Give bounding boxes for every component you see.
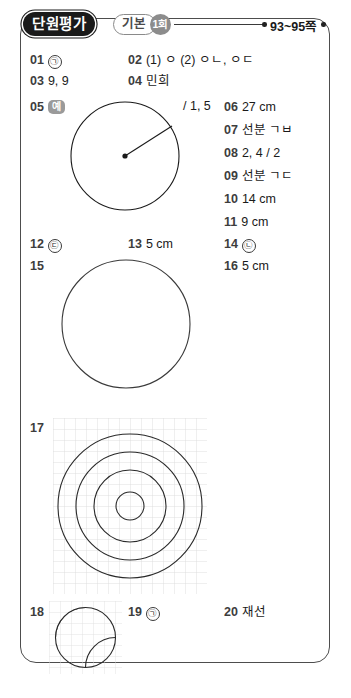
answer-value: 2, 4 / 2 [242,146,280,160]
answer-value: ㉠ [48,55,62,69]
unit-test-badge: 단원평가 [23,12,95,36]
answer-item-03: 039, 9 [30,73,69,89]
level-label: 기본 [122,17,146,31]
answer-item-20: 20재선 [224,604,266,620]
figure-circle-with-arcs [49,601,122,674]
figure-plain-circle [58,256,194,392]
answer-item-16: 165 cm [224,258,269,274]
answer-value: 선분 ㄱㄷ [242,169,293,183]
answer-value: 5 cm [146,237,173,251]
answer-item-04: 04민희 [128,73,170,89]
answer-number: 04 [128,74,142,88]
concentric-circles-svg [53,418,207,594]
header-rule [174,24,263,25]
answer-number: 15 [30,259,44,273]
answer-number: 17 [30,421,44,435]
answer-item-19: 19㉠ [128,604,160,621]
answer-item-17: 17 [30,420,48,436]
answer-value: ㉢ [48,239,62,253]
answer-number: 09 [224,169,238,183]
rule-dot-right [321,22,326,27]
answer-value: 9 cm [241,215,268,229]
answer-number: 05 [30,100,44,114]
answer-item-12: 12㉢ [30,236,62,253]
answer-value: 14 cm [242,192,276,206]
answer-number: 07 [224,123,238,137]
answer-item-10: 1014 cm [224,191,276,207]
answer-item-09: 09선분 ㄱㄷ [224,168,293,184]
answer-number: 19 [128,605,142,619]
unit-test-label: 단원평가 [32,16,86,32]
answer-item-08: 082, 4 / 2 [224,145,280,161]
sheet-header: 단원평가 기본 1회 93~95쪽 [0,0,351,42]
answer-number: 20 [224,605,238,619]
answer-item-15: 15 [30,258,48,274]
round-badge: 1회 [150,14,171,35]
answer-item-18: 18 [30,604,48,620]
answer-05-fragment: / 1, 5 [183,99,211,113]
answer-value: 선분 ㄱㅂ [242,123,293,137]
answer-item-05: 05예 [30,99,65,115]
answer-item-07: 07선분 ㄱㅂ [224,122,293,138]
answer-value: ㉠ [146,607,160,621]
answer-value: 재선 [242,605,266,619]
answer-item-01: 01㉠ [30,52,62,69]
answer-number: 08 [224,146,238,160]
circle-radius-svg [62,94,188,216]
answer-number: 12 [30,237,44,251]
answer-number: 11 [224,215,237,229]
answer-number: 18 [30,605,44,619]
answer-item-14: 14㉡ [224,236,256,253]
answer-number: 06 [224,100,238,114]
answer-number: 10 [224,192,238,206]
answer-value: 5 cm [242,259,269,273]
rule-dot-left [262,22,267,27]
answer-number: 16 [224,259,238,273]
answer-item-02: 02(1) ㅇ (2) ㅇㄴ, ㅇㄷ [128,52,254,68]
answer-number: 02 [128,53,142,67]
answer-item-13: 135 cm [128,236,173,252]
answer-value: 27 cm [242,100,276,114]
answer-number: 01 [30,53,44,67]
answer-number: 13 [128,237,142,251]
answer-number: 03 [30,74,44,88]
figure-circle-with-radius [62,94,188,216]
answer-item-11: 119 cm [224,214,268,230]
answer-value: (1) ㅇ (2) ㅇㄴ, ㅇㄷ [146,53,254,67]
answer-number: 14 [224,237,238,251]
answer-value: 9, 9 [48,74,69,88]
answer-item-06: 0627 cm [224,99,276,115]
circle-arcs-svg [49,601,122,674]
figure-concentric-circles [53,418,207,594]
plain-circle-svg [58,256,194,392]
round-label: 1회 [153,18,169,30]
answer-value: ㉡ [242,239,256,253]
page-range-label: 93~95쪽 [270,16,317,35]
answer-value: 민희 [146,74,170,88]
